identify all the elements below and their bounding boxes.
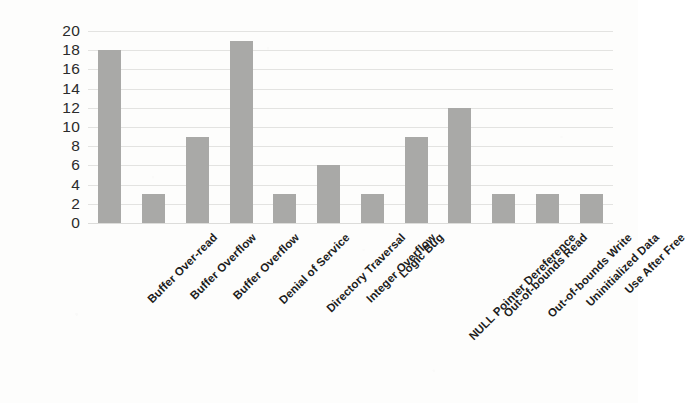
y-tick-label-18: 18: [52, 42, 80, 58]
y-tick-label-8: 8: [52, 138, 80, 154]
y-tick-label-0: 0: [52, 215, 80, 231]
bar[interactable]: [580, 194, 603, 223]
bar[interactable]: [448, 108, 471, 223]
bar[interactable]: [142, 194, 165, 223]
y-tick-label-20: 20: [52, 23, 80, 39]
bar-series: [88, 31, 613, 223]
x-axis: Buffer Over-readBuffer OverflowBuffer Ov…: [88, 223, 613, 403]
bar[interactable]: [273, 194, 296, 223]
x-tick-label: Buffer Over-read: [145, 231, 219, 305]
bar[interactable]: [98, 50, 121, 223]
x-tick-label: NULL Pointer Dereference: [467, 231, 578, 342]
x-tick-label: Out-of-bounds Read: [501, 231, 589, 319]
y-axis: 20181614121086420: [52, 0, 80, 403]
y-tick-label-16: 16: [52, 62, 80, 78]
bar[interactable]: [536, 194, 559, 223]
y-tick-label-12: 12: [52, 100, 80, 116]
bar[interactable]: [361, 194, 384, 223]
y-tick-label-4: 4: [52, 177, 80, 193]
bar[interactable]: [317, 165, 340, 223]
bar[interactable]: [405, 137, 428, 223]
bar[interactable]: [492, 194, 515, 223]
y-tick-label-2: 2: [52, 196, 80, 212]
bar[interactable]: [186, 137, 209, 223]
y-tick-label-14: 14: [52, 81, 80, 97]
y-tick-label-10: 10: [52, 119, 80, 135]
y-tick-label-6: 6: [52, 158, 80, 174]
bar[interactable]: [230, 41, 253, 223]
plot-area: [88, 31, 613, 223]
